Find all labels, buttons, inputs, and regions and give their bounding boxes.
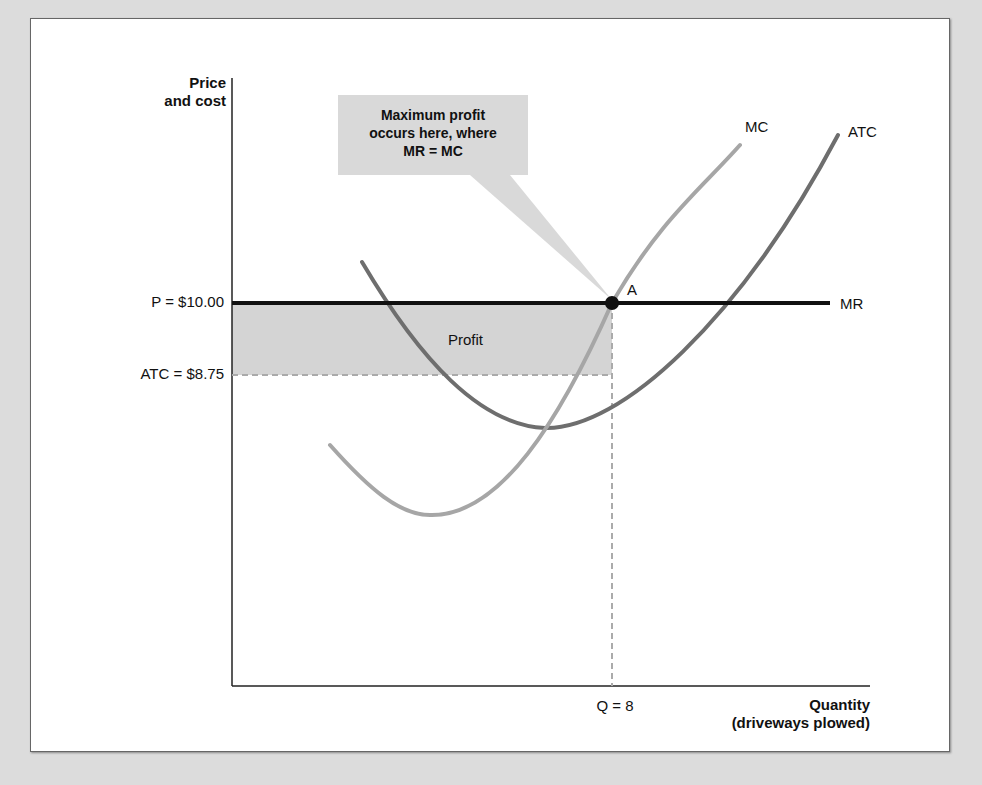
- y-axis-label: Price and cost: [140, 74, 226, 110]
- callout-pointer: [470, 175, 612, 300]
- mr-line-label: MR: [840, 295, 863, 312]
- y-axis-label-line1: Price: [140, 74, 226, 92]
- profit-label: Profit: [448, 331, 483, 348]
- y-axis-label-line2: and cost: [140, 92, 226, 110]
- x-axis-label: Quantity (driveways plowed): [700, 696, 870, 732]
- point-a-marker: [605, 296, 619, 310]
- price-tick-label: P = $10.00: [100, 293, 224, 310]
- atc-tick-label: ATC = $8.75: [100, 365, 224, 382]
- mc-curve-label: MC: [745, 118, 768, 135]
- quantity-tick-label: Q = 8: [585, 697, 645, 714]
- profit-region: [232, 303, 612, 375]
- callout-text: Maximum profit occurs here, where MR = M…: [338, 106, 528, 160]
- point-a-label: A: [627, 281, 637, 298]
- callout-line2: occurs here, where: [338, 124, 528, 142]
- callout-line1: Maximum profit: [338, 106, 528, 124]
- x-axis-label-line1: Quantity: [700, 696, 870, 714]
- callout-line3: MR = MC: [338, 142, 528, 160]
- x-axis-label-line2: (driveways plowed): [700, 714, 870, 732]
- atc-curve-label: ATC: [848, 123, 877, 140]
- atc-curve: [362, 135, 838, 428]
